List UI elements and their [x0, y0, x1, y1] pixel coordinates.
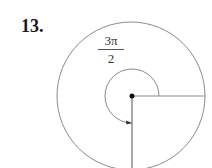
angle-label: 3π 2	[98, 34, 124, 65]
angle-denominator: 2	[98, 52, 124, 65]
angle-diagram	[0, 0, 212, 168]
fraction-bar	[98, 49, 124, 50]
origin-dot	[130, 94, 135, 99]
angle-numerator: 3π	[98, 34, 124, 48]
